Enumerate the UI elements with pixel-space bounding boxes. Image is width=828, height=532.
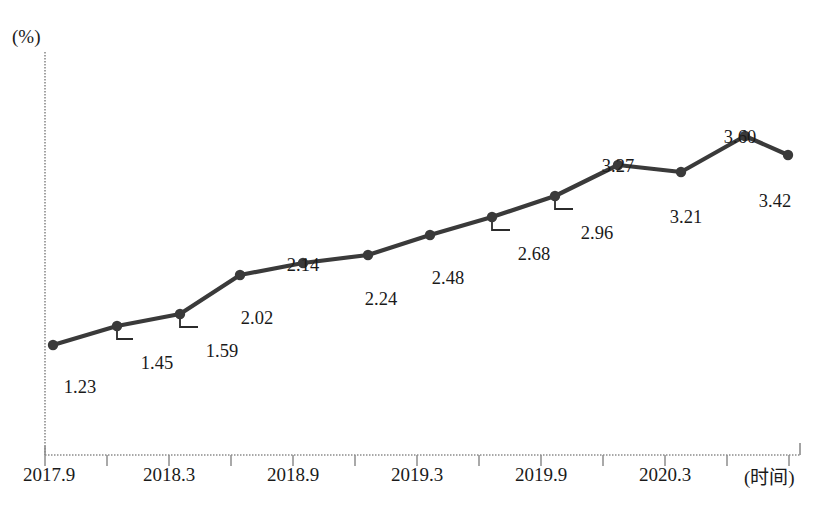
data-point-label: 1.59 — [206, 341, 238, 362]
chart-canvas — [0, 0, 828, 532]
line-chart: (%) (时间) 2017.92018.32018.92019.32019.92… — [0, 0, 828, 532]
axis-group — [45, 52, 800, 466]
x-tick-label: 2017.9 — [23, 464, 75, 486]
label-leader-lines — [117, 196, 573, 339]
data-point-label: 2.96 — [581, 223, 613, 244]
y-axis-unit-label: (%) — [12, 26, 40, 48]
data-point-label: 2.02 — [241, 308, 273, 329]
x-tick-label: 2020.3 — [639, 464, 691, 486]
x-tick-label: 2018.3 — [143, 464, 195, 486]
x-axis-unit-label: (时间) — [744, 462, 795, 489]
data-point-label: 2.48 — [432, 268, 464, 289]
data-point-label: 2.24 — [365, 289, 397, 310]
x-tick-label: 2019.9 — [515, 464, 567, 486]
data-point-label: 1.45 — [141, 353, 173, 374]
data-point-label: 2.14 — [287, 255, 319, 276]
data-point-label: 2.68 — [518, 244, 550, 265]
x-tick-label: 2019.3 — [391, 464, 443, 486]
data-point-label: 1.23 — [64, 377, 96, 398]
data-series-line — [53, 136, 788, 345]
data-point-label: 3.27 — [602, 156, 634, 177]
x-tick-label: 2018.9 — [267, 464, 319, 486]
data-point-label: 3.42 — [759, 191, 791, 212]
data-point-label: 3.60 — [724, 127, 756, 148]
data-point-label: 3.21 — [670, 207, 702, 228]
